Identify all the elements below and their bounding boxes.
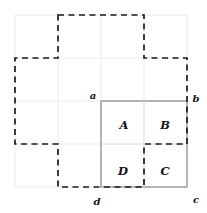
corner-label-c: c bbox=[193, 194, 199, 205]
geometry-figure: A B C D a b c d bbox=[0, 0, 207, 213]
cell-label-b: B bbox=[159, 118, 170, 132]
cell-label-c: C bbox=[160, 164, 170, 178]
figure-container: A B C D a b c d bbox=[0, 0, 207, 213]
corner-label-a: a bbox=[90, 90, 96, 101]
corner-label-b: b bbox=[193, 93, 200, 104]
cell-label-a: A bbox=[119, 118, 129, 132]
cell-label-d: D bbox=[117, 164, 128, 178]
corner-label-d: d bbox=[94, 196, 101, 207]
